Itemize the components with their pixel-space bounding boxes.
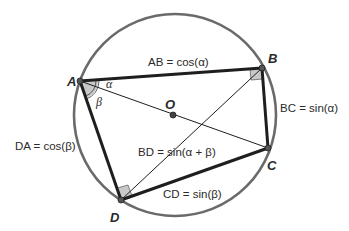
label-d: D xyxy=(110,210,120,225)
label-a: A xyxy=(66,74,76,89)
point-o xyxy=(170,112,176,118)
point-a xyxy=(77,78,83,84)
diagonal-bd xyxy=(121,68,262,200)
point-d xyxy=(118,197,124,203)
cyclic-quadrilateral-diagram: A B C D O α β AB = cos(α) BC = sin(α) CD… xyxy=(0,0,349,231)
label-c: C xyxy=(267,158,277,173)
side-bc xyxy=(262,68,268,148)
label-beta: β xyxy=(95,95,102,109)
equation-ab: AB = cos(α) xyxy=(148,56,209,68)
label-alpha: α xyxy=(106,77,113,91)
equation-cd: CD = sin(β) xyxy=(163,188,222,200)
label-b: B xyxy=(268,51,277,66)
equation-bc: BC = sin(α) xyxy=(280,102,338,114)
point-b xyxy=(259,65,265,71)
equation-bd: BD = sin(α + β) xyxy=(138,146,216,158)
point-c xyxy=(265,145,271,151)
label-o: O xyxy=(165,97,175,112)
equation-da: DA = cos(β) xyxy=(15,140,76,152)
